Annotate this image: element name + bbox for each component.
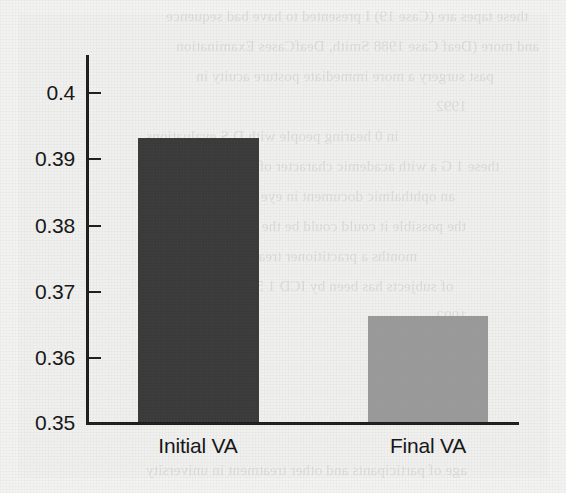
y-tick-label: 0.36 bbox=[35, 347, 75, 368]
y-tick-mark-0.38 bbox=[89, 225, 101, 227]
y-tick-label: 0.4 bbox=[46, 82, 75, 103]
x-tick-label-final-va: Final VA bbox=[348, 434, 508, 458]
y-tick-label: 0.37 bbox=[35, 281, 75, 302]
y-axis-line bbox=[86, 55, 89, 425]
x-tick-label-initial-va: Initial VA bbox=[118, 434, 278, 458]
bar-chart: 0.4 0.39 0.38 0.37 0.36 0.35 Initial VA … bbox=[0, 0, 566, 493]
bar-initial-va bbox=[138, 138, 259, 422]
bar-final-va bbox=[368, 316, 488, 422]
y-tick-mark-0.36 bbox=[89, 357, 101, 359]
y-tick-label: 0.38 bbox=[35, 215, 75, 236]
y-tick-mark-0.35 bbox=[89, 422, 101, 424]
scanned-page: these tapes are (Case 19) I presented to… bbox=[0, 0, 566, 493]
x-axis-line bbox=[86, 422, 519, 425]
y-tick-label: 0.35 bbox=[35, 412, 75, 433]
y-tick-mark-0.4 bbox=[89, 92, 101, 94]
y-tick-label: 0.39 bbox=[35, 148, 75, 169]
y-tick-mark-0.37 bbox=[89, 291, 101, 293]
y-tick-mark-0.39 bbox=[89, 158, 101, 160]
